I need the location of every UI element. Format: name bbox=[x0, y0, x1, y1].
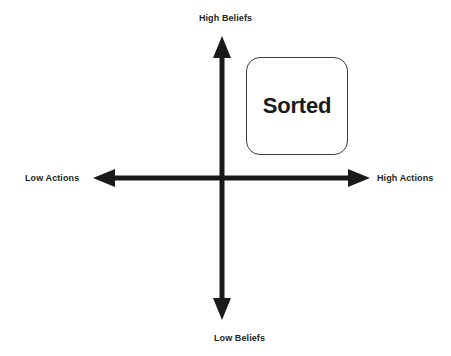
quadrant-box-sorted: Sorted bbox=[246, 57, 348, 155]
arrowhead-down-icon bbox=[213, 298, 231, 320]
quadrant-diagram-canvas: High Beliefs Low Actions High Actions Lo… bbox=[0, 0, 451, 356]
arrowhead-left-icon bbox=[93, 169, 115, 187]
axis-label-high-beliefs: High Beliefs bbox=[0, 14, 451, 23]
axis-label-low-actions: Low Actions bbox=[25, 174, 79, 183]
arrowhead-right-icon bbox=[348, 169, 370, 187]
arrowhead-up-icon bbox=[213, 36, 231, 58]
quadrant-box-label: Sorted bbox=[263, 95, 331, 117]
axis-label-high-actions: High Actions bbox=[377, 174, 433, 183]
axis-label-low-beliefs: Low Beliefs bbox=[0, 334, 451, 343]
